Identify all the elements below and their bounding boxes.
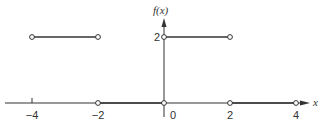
y-axis-label: f(x) xyxy=(153,4,169,17)
x-tick-label: 0 xyxy=(170,109,176,121)
x-tick-label: −2 xyxy=(92,109,105,121)
open-endpoint xyxy=(162,35,167,40)
open-endpoint xyxy=(228,101,233,106)
x-tick-label: 2 xyxy=(227,109,233,121)
open-endpoint xyxy=(162,101,167,106)
ticks: −4−20242 xyxy=(26,31,299,121)
x-axis-arrow-icon xyxy=(300,101,310,106)
open-endpoint xyxy=(30,35,35,40)
x-axis-label: x xyxy=(312,96,318,108)
x-tick-label: 4 xyxy=(293,109,299,121)
open-endpoint xyxy=(96,35,101,40)
y-axis-arrow-icon xyxy=(162,18,167,27)
x-tick-label: −4 xyxy=(26,109,39,121)
y-tick-label: 2 xyxy=(154,31,160,43)
open-endpoint xyxy=(228,35,233,40)
open-endpoint xyxy=(96,101,101,106)
step-function-graph: x f(x) −4−20242 xyxy=(0,0,328,126)
open-endpoint xyxy=(294,101,299,106)
axes: x f(x) xyxy=(5,4,318,117)
